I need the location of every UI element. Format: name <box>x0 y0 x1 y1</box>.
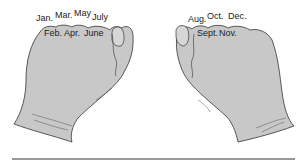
left-fist <box>14 25 133 142</box>
right-fist <box>176 25 294 142</box>
label-nov: Nov. <box>219 29 237 38</box>
label-mar: Mar. <box>55 11 73 20</box>
right-fist-shape <box>176 25 294 142</box>
label-jan: Jan. <box>36 14 53 23</box>
label-apr: Apr. <box>64 29 80 38</box>
right-palm-crease <box>198 100 210 112</box>
label-oct: Oct. <box>207 12 224 21</box>
label-aug: Aug. <box>188 15 207 24</box>
label-may: May <box>74 9 91 18</box>
label-dec: Dec. <box>228 12 247 21</box>
label-june: June <box>84 29 104 38</box>
left-thumb <box>112 27 124 46</box>
label-july: July <box>92 13 108 22</box>
label-sept: Sept. <box>197 29 218 38</box>
label-feb: Feb. <box>44 29 62 38</box>
diagram-canvas <box>0 0 307 162</box>
right-thumb <box>176 26 189 47</box>
